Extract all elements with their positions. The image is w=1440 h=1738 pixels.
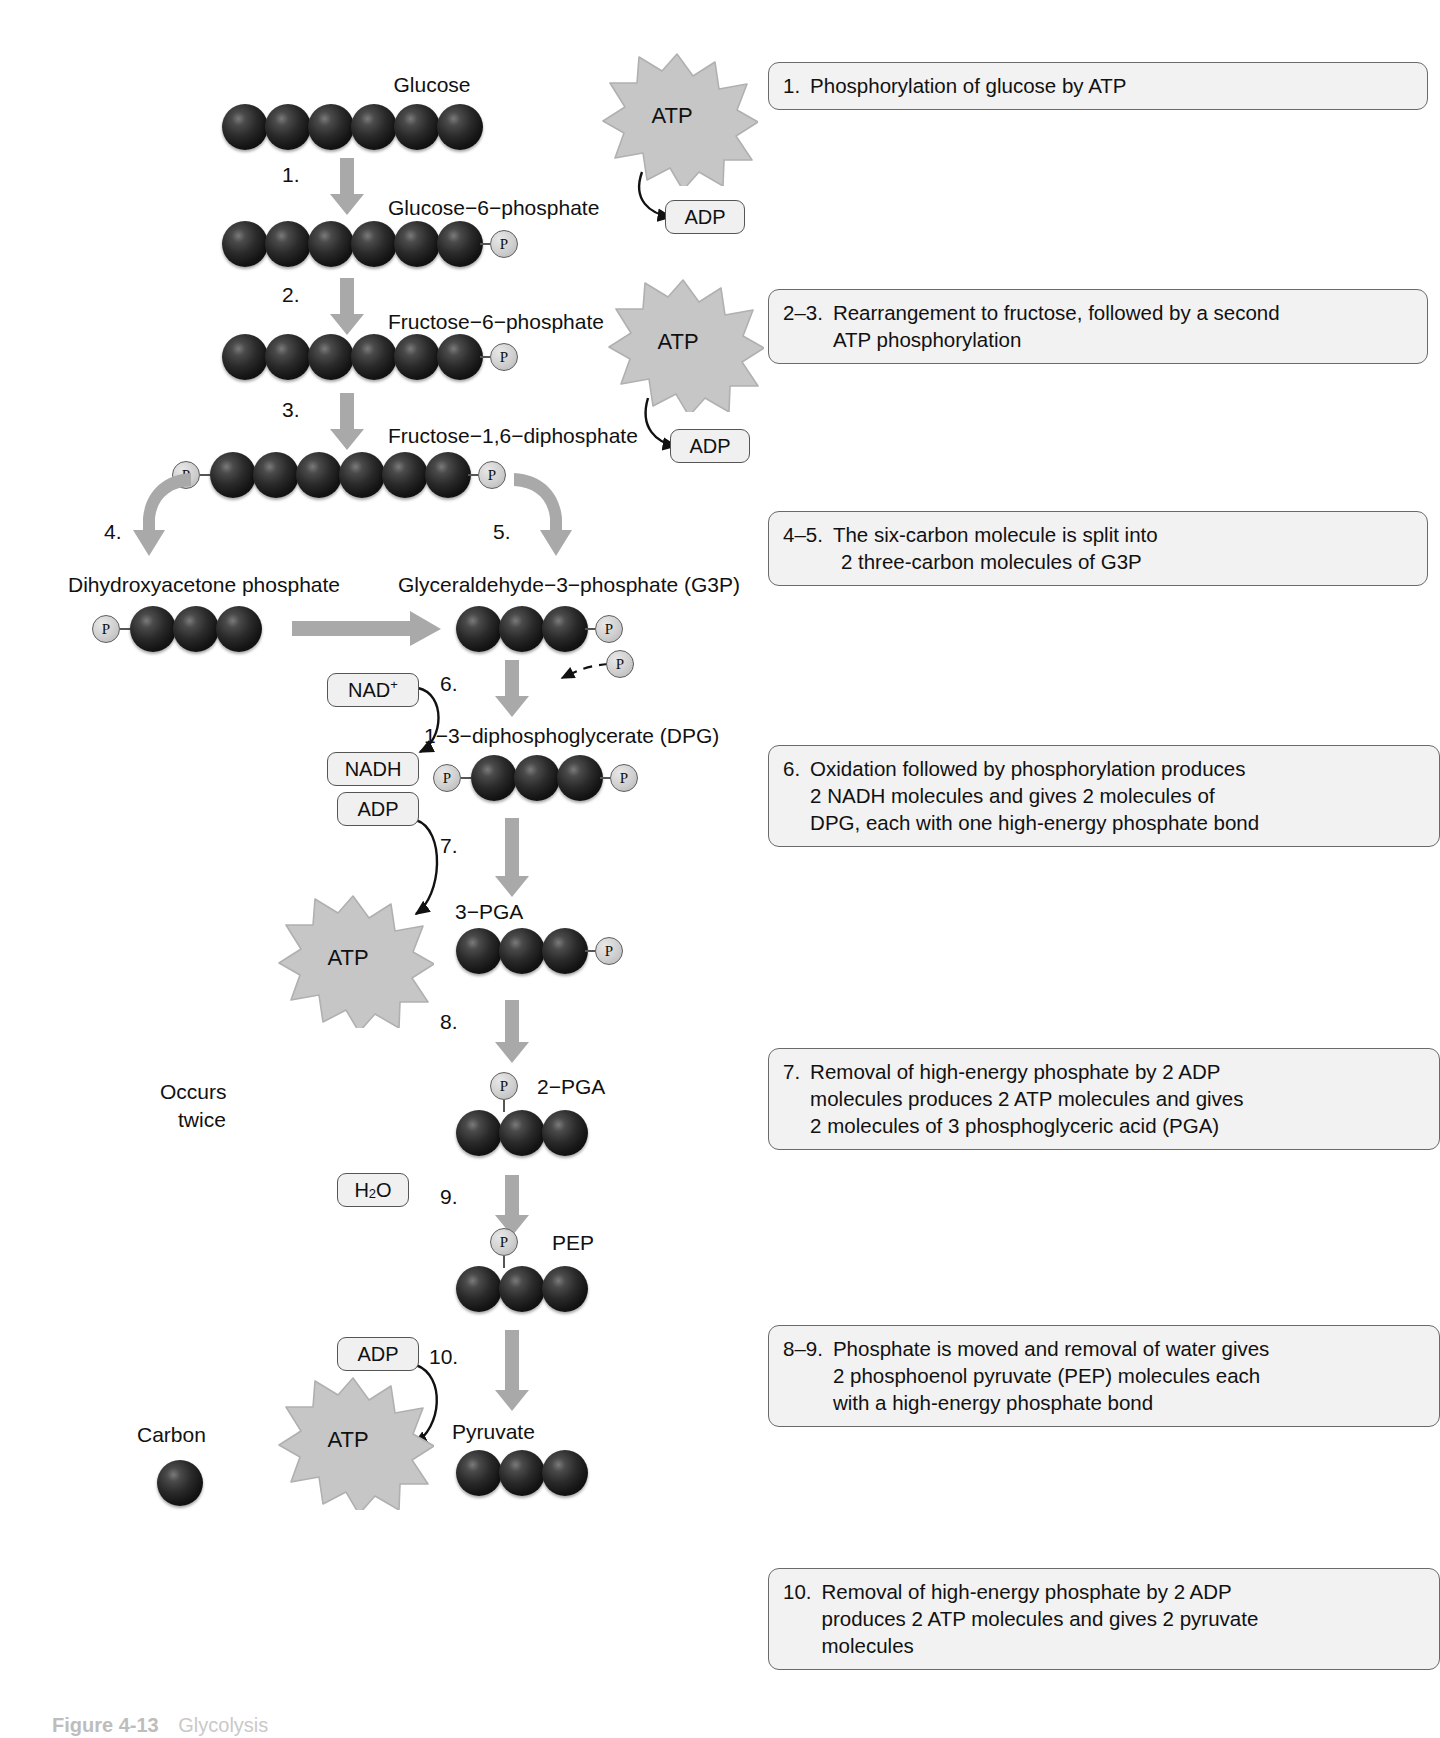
callout-line: Removal of high-energy phosphate by 2 AD… [822, 1578, 1426, 1605]
carbon-sphere [173, 606, 219, 652]
step-number-3: 3. [282, 398, 300, 422]
callout-line: Rearrangement to fructose, followed by a… [833, 299, 1413, 326]
step-number-7: 7. [440, 834, 458, 858]
callout-box-6[interactable]: 6. Oxidation followed by phosphorylation… [768, 745, 1440, 847]
phosphate-bond [468, 474, 478, 477]
figure-caption: Figure 4-13 Glycolysis [52, 1714, 268, 1737]
callout-line: Removal of high-energy phosphate by 2 AD… [810, 1058, 1425, 1085]
nad-plus-pill: NAD+ [327, 673, 419, 707]
molecule-2-pga [456, 1110, 588, 1156]
carbon-sphere [265, 221, 311, 267]
arrow-dhap-to-g3p [292, 611, 442, 647]
callout-line: produces 2 ATP molecules and gives 2 pyr… [822, 1605, 1426, 1632]
carbon-sphere [499, 1110, 545, 1156]
label-3-pga: 3−PGA [455, 900, 523, 924]
step-number-9: 9. [440, 1185, 458, 1209]
label-glyceraldehyde-3-phosphate: Glyceraldehyde−3−phosphate (G3P) [398, 573, 740, 597]
label-pyruvate: Pyruvate [452, 1420, 535, 1444]
adp-pill-step1: ADP [665, 200, 745, 234]
callout-text: Phosphorylation of glucose by ATP [810, 72, 1413, 99]
callout-box-10[interactable]: 10. Removal of high-energy phosphate by … [768, 1568, 1440, 1670]
callout-text: The six-carbon molecule is split into 2 … [833, 521, 1413, 575]
carbon-sphere [514, 755, 560, 801]
molecule-glucose-6-phosphate: P [222, 221, 518, 267]
legend-carbon-sphere [157, 1460, 203, 1506]
molecule-pyruvate [456, 1450, 588, 1496]
phosphate-group-2pga: P [490, 1072, 518, 1112]
phosphate-icon: P [595, 937, 623, 965]
arrow-step-3 [329, 393, 365, 451]
carbon-sphere [437, 221, 483, 267]
carbon-sphere [222, 221, 268, 267]
arrow-step-5 [512, 470, 580, 560]
carbon-sphere [456, 1110, 502, 1156]
step-number-6: 6. [440, 672, 458, 696]
adp-pill-step3: ADP [670, 429, 750, 463]
callout-box-8-9[interactable]: 8–9. Phosphate is moved and removal of w… [768, 1325, 1440, 1427]
carbon-sphere [382, 452, 428, 498]
nad-plus-label: NAD [348, 679, 390, 702]
label-2-pga: 2−PGA [537, 1075, 605, 1099]
carbon-sphere [265, 104, 311, 150]
carbon-sphere [394, 334, 440, 380]
arrow-step-4 [125, 470, 193, 560]
label-glucose: Glucose [393, 73, 470, 97]
phosphate-icon: P [478, 461, 506, 489]
carbon-sphere [499, 928, 545, 974]
water-pill: H2O [337, 1173, 409, 1207]
connector-lines-layer [0, 0, 1440, 1738]
molecule-dihydroxyacetone-phosphate: P [92, 606, 262, 652]
glycolysis-figure: Glucose 1. Glucose−6−phosphate P 2. Fruc… [0, 0, 1440, 1738]
callout-line: 2 three-carbon molecules of G3P [833, 548, 1413, 575]
carbon-sphere [542, 1110, 588, 1156]
step-number-10: 10. [429, 1345, 458, 1369]
adp-pill-step7: ADP [337, 792, 419, 826]
carbon-sphere [296, 452, 342, 498]
carbon-sphere [425, 452, 471, 498]
carbon-sphere [222, 334, 268, 380]
callout-number: 2–3. [783, 299, 823, 353]
phosphate-group-pep: P [490, 1228, 518, 1268]
callout-box-4-5[interactable]: 4–5. The six-carbon molecule is split in… [768, 511, 1428, 586]
molecule-3-pga: P [456, 928, 623, 974]
atp-burst-step1: ATP [586, 46, 758, 186]
carbon-sphere [542, 928, 588, 974]
callout-box-7[interactable]: 7. Removal of high-energy phosphate by 2… [768, 1048, 1440, 1150]
label-glucose-6-phosphate: Glucose−6−phosphate [388, 196, 599, 220]
phosphate-bond [200, 474, 210, 477]
carbon-sphere [499, 1450, 545, 1496]
step-number-8: 8. [440, 1010, 458, 1034]
phosphate-icon: P [490, 343, 518, 371]
arrow-step-1 [329, 158, 365, 216]
callout-text: Removal of high-energy phosphate by 2 AD… [822, 1578, 1426, 1659]
occurs-twice-line2: twice [178, 1108, 226, 1132]
step-number-5: 5. [493, 520, 511, 544]
callout-box-2-3[interactable]: 2–3. Rearrangement to fructose, followed… [768, 289, 1428, 364]
carbon-sphere [456, 1266, 502, 1312]
nadh-pill: NADH [327, 752, 419, 786]
phosphate-bond [585, 950, 595, 953]
callout-line: ATP phosphorylation [833, 326, 1413, 353]
label-fructose-1-6-diphosphate: Fructose−1,6−diphosphate [388, 424, 638, 448]
callout-number: 7. [783, 1058, 800, 1139]
phosphate-bond [120, 628, 130, 631]
callout-box-1[interactable]: 1. Phosphorylation of glucose by ATP [768, 62, 1428, 110]
molecule-glyceraldehyde-3-phosphate: P [456, 606, 623, 652]
phosphate-icon: P [490, 1228, 518, 1256]
carbon-sphere [542, 606, 588, 652]
callout-line: molecules [822, 1632, 1426, 1659]
carbon-sphere [437, 104, 483, 150]
carbon-sphere [265, 334, 311, 380]
callout-text: Rearrangement to fructose, followed by a… [833, 299, 1413, 353]
callout-number: 4–5. [783, 521, 823, 575]
step-number-4: 4. [104, 520, 122, 544]
molecule-fructose-1-6-diphosphate: P P [172, 452, 506, 498]
callout-text: Removal of high-energy phosphate by 2 AD… [810, 1058, 1425, 1139]
phosphate-icon: P [92, 615, 120, 643]
atp-burst-step10: ATP [262, 1370, 434, 1510]
figure-caption-label: Figure 4-13 [52, 1714, 159, 1736]
callout-line: Oxidation followed by phosphorylation pr… [810, 755, 1425, 782]
phosphate-bond [480, 356, 490, 359]
carbon-sphere [253, 452, 299, 498]
carbon-sphere [499, 606, 545, 652]
